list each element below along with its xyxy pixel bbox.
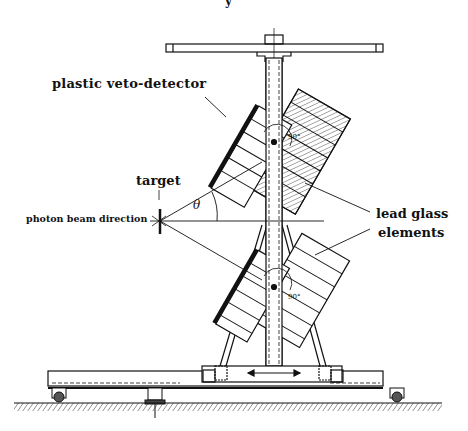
target-label: target [136, 173, 181, 188]
theta-angle-label: θ [193, 198, 200, 212]
veto-detector-label: plastic veto-detector [52, 76, 206, 91]
ground [14, 403, 442, 411]
column-overlay [266, 58, 282, 366]
page-fragment-text: y [225, 0, 232, 8]
base-carriage [48, 366, 383, 388]
target-marker [152, 190, 166, 234]
lead-glass-label-line2: elements [378, 225, 444, 240]
lower-angle-label: 90° [288, 293, 300, 301]
beam-direction-label: photon beam direction [26, 213, 147, 224]
upper-angle-label: 90° [288, 133, 300, 141]
lead-glass-label-line1: lead glass [376, 206, 448, 221]
